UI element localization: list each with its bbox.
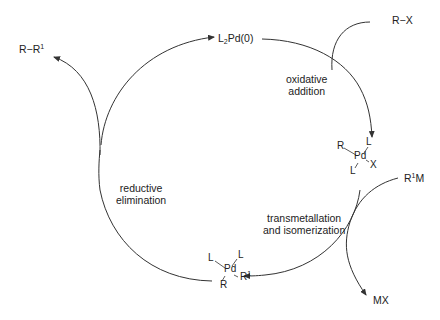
step-reductive-elimination: reductive elimination [116,182,166,206]
arrow-r1m-in-mx-out [346,178,398,295]
oxcomplex-r: R [337,141,344,151]
arrow-to-product [54,57,100,155]
transcomplex-l-right: L [238,250,244,260]
step-reductive-line2: elimination [116,194,166,206]
step-oxidative-line2: addition [286,85,327,97]
reagent-label: R1M [404,172,424,184]
arc-reductive-elimination [99,150,212,281]
byproduct-label: MX [373,294,389,306]
product-superscript: 1 [40,43,44,50]
transcomplex-r: R [220,280,227,290]
transcomplex-pd: Pd [224,264,236,274]
reagent-prefix: R [404,172,412,184]
transcomplex-l-left: L [208,253,214,263]
step-transmetallation: transmetallation and isomerization [263,212,345,236]
oxcomplex-l-top: L [366,137,372,147]
oxcomplex-pd: Pd [354,151,366,161]
step-oxidative-line1: oxidative [286,73,327,85]
reactant-rx-label: R−X [392,14,413,26]
product-label: R−R1 [19,43,44,55]
product-base: R−R [19,43,40,55]
reagent-suffix: M [416,172,425,184]
catalyst-suffix: Pd(0) [228,32,254,44]
step-reductive-line1: reductive [116,182,166,194]
step-trans-line2: and isomerization [263,224,345,236]
catalyst-label: L2Pd(0) [218,32,253,44]
transcomplex-r1-sup: 1 [247,270,251,277]
oxcomplex-x: X [370,160,377,170]
step-oxidative-addition: oxidative addition [286,73,327,97]
transcomplex-r1: R1 [240,272,251,282]
arrow-to-catalyst [101,37,214,145]
step-trans-line1: transmetallation [263,212,345,224]
oxcomplex-l-bottom: L [350,166,356,176]
